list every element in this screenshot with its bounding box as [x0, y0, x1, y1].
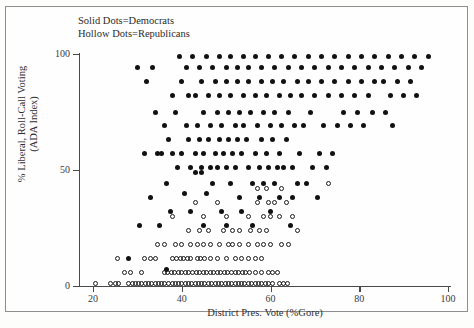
data-point-democrat [261, 110, 266, 115]
data-point-republican [239, 256, 244, 261]
data-point-democrat [184, 65, 189, 70]
y-tick-label: 0 [42, 280, 70, 291]
data-point-democrat [319, 54, 324, 59]
y-axis-title-line2: (ADA Index) [28, 34, 40, 214]
data-point-republican [246, 242, 251, 247]
data-point-democrat [228, 181, 233, 186]
data-point-republican [215, 256, 220, 261]
data-point-democrat [215, 165, 220, 170]
data-point-democrat [310, 165, 315, 170]
data-point-democrat [186, 137, 191, 142]
x-tick-label: 20 [73, 293, 113, 304]
data-point-democrat [286, 65, 291, 70]
y-axis-line [79, 53, 80, 287]
data-point-democrat [213, 79, 218, 84]
x-tick-label: 60 [251, 293, 291, 304]
data-point-republican [264, 186, 269, 191]
data-point-democrat [277, 195, 282, 200]
data-point-democrat [126, 256, 131, 261]
data-point-democrat [326, 93, 331, 98]
plot-area: Solid Dots=Democrats Hollow Dots=Republi… [0, 0, 474, 328]
data-point-democrat [235, 137, 240, 142]
data-point-democrat [257, 165, 262, 170]
data-point-democrat [197, 65, 202, 70]
data-point-democrat [272, 65, 277, 70]
data-point-democrat [184, 123, 189, 128]
data-point-republican [277, 214, 282, 219]
data-point-democrat [301, 123, 306, 128]
data-point-republican [253, 256, 258, 261]
data-point-republican [93, 281, 98, 286]
data-point-republican [155, 242, 160, 247]
data-point-democrat [359, 79, 364, 84]
data-point-republican [255, 242, 260, 247]
data-point-democrat [135, 65, 140, 70]
data-point-republican [279, 242, 284, 247]
data-point-democrat [326, 65, 331, 70]
data-point-democrat [226, 110, 231, 115]
data-point-democrat [299, 65, 304, 70]
data-point-democrat [246, 165, 251, 170]
data-point-democrat [281, 165, 286, 170]
data-point-democrat [193, 151, 198, 156]
data-point-democrat [210, 65, 215, 70]
data-point-democrat [217, 54, 222, 59]
data-point-republican [257, 228, 262, 233]
data-point-democrat [164, 181, 169, 186]
data-point-democrat [366, 93, 371, 98]
y-tick [73, 170, 79, 171]
data-point-democrat [266, 165, 271, 170]
data-point-republican [261, 242, 266, 247]
data-point-republican [170, 214, 175, 219]
data-point-democrat [179, 79, 184, 84]
data-point-democrat [419, 65, 424, 70]
data-point-republican [230, 228, 235, 233]
data-point-republican [206, 228, 211, 233]
x-tick [182, 286, 183, 292]
data-point-democrat [268, 123, 273, 128]
data-point-democrat [295, 181, 300, 186]
data-point-democrat [270, 79, 275, 84]
data-point-democrat [284, 137, 289, 142]
data-point-democrat [346, 54, 351, 59]
data-point-democrat [352, 65, 357, 70]
data-point-republican [224, 214, 229, 219]
y-tick-label: 50 [42, 164, 70, 175]
data-point-republican [326, 181, 331, 186]
data-point-republican [264, 228, 269, 233]
data-point-democrat [157, 223, 162, 228]
data-point-republican [248, 228, 253, 233]
data-point-republican [261, 214, 266, 219]
data-point-democrat [288, 223, 293, 228]
data-point-republican [142, 256, 147, 261]
data-point-democrat [148, 195, 153, 200]
data-point-democrat [277, 151, 282, 156]
data-point-democrat [210, 181, 215, 186]
data-point-democrat [395, 79, 400, 84]
data-point-democrat [408, 79, 413, 84]
data-point-democrat [197, 137, 202, 142]
data-point-democrat [193, 170, 198, 175]
data-point-democrat [275, 165, 280, 170]
data-point-democrat [199, 165, 204, 170]
data-point-democrat [201, 223, 206, 228]
data-point-democrat [332, 54, 337, 59]
data-point-democrat [166, 137, 171, 142]
data-point-democrat [201, 151, 206, 156]
data-point-republican [201, 242, 206, 247]
data-point-republican [290, 214, 295, 219]
data-point-republican [221, 228, 226, 233]
data-point-democrat [414, 93, 419, 98]
data-point-democrat [177, 54, 182, 59]
data-point-democrat [246, 79, 251, 84]
data-point-democrat [208, 165, 213, 170]
data-point-democrat [162, 123, 167, 128]
data-point-democrat [208, 123, 213, 128]
data-point-democrat [292, 54, 297, 59]
data-point-democrat [199, 170, 204, 175]
data-point-democrat [372, 79, 377, 84]
data-point-democrat [339, 93, 344, 98]
data-point-democrat [170, 151, 175, 156]
data-point-democrat [308, 110, 313, 115]
legend-entry-republicans: Hollow Dots=Republicans [78, 28, 190, 41]
